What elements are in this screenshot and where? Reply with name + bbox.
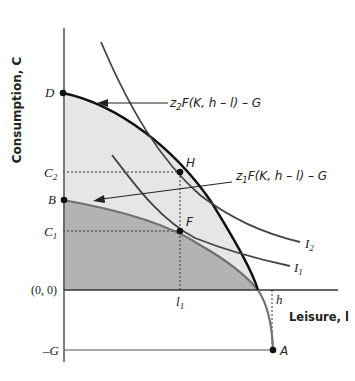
label-z2-ppf: z2F(K, h – l) – G — [169, 96, 261, 112]
tick-b: B — [48, 192, 56, 207]
tick-c1: C1 — [44, 224, 57, 241]
tick-neg-g: –G — [42, 343, 60, 358]
origin-label: (0, 0) — [31, 283, 57, 297]
ppf-diagram: Consumption, C D C2 B C1 (0, 0) –G l1 h … — [0, 0, 355, 381]
label-i2: I2 — [304, 236, 314, 253]
label-z1-ppf: z1F(K, h – l) – G — [235, 169, 327, 185]
point-a — [270, 347, 277, 354]
label-i1: I1 — [293, 260, 303, 277]
tick-d: D — [44, 85, 55, 100]
label-h: H — [186, 156, 195, 170]
point-b — [61, 197, 68, 204]
point-d — [60, 90, 67, 97]
tick-l1: l1 — [176, 294, 184, 311]
label-a: A — [279, 344, 288, 358]
y-axis-label: Consumption, C — [10, 57, 24, 164]
point-h — [177, 169, 184, 176]
tick-h: h — [276, 292, 283, 307]
tick-c2: C2 — [44, 165, 58, 182]
x-axis-label: Leisure, l — [289, 310, 349, 324]
point-f — [177, 228, 184, 235]
label-f: F — [186, 215, 194, 229]
